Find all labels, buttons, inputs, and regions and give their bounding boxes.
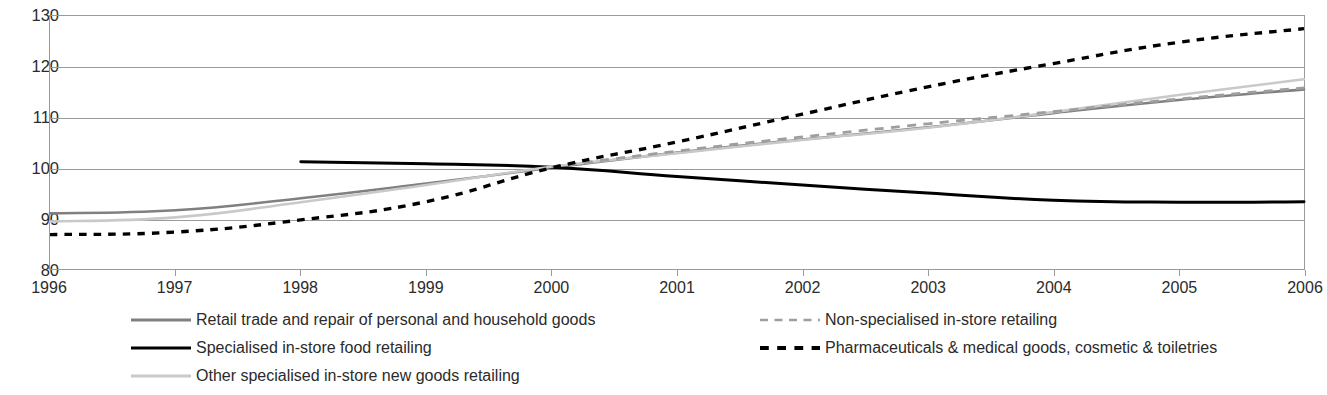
x-tick-label-1998: 1998 (255, 280, 345, 296)
x-tick-label-1999: 1999 (381, 280, 471, 296)
x-tick-1997 (175, 270, 176, 276)
legend-label: Pharmaceuticals & medical goods, cosmeti… (825, 340, 1217, 356)
x-tick-1998 (300, 270, 301, 276)
series-line-2 (50, 79, 1304, 221)
plot-area (49, 15, 1305, 270)
dashed-line-swatch-gray (760, 313, 820, 327)
x-tick-2000 (551, 270, 552, 276)
x-tick-2002 (803, 270, 804, 276)
x-tick-label-2003: 2003 (883, 280, 973, 296)
x-tick-label-2000: 2000 (506, 280, 596, 296)
series-line-4 (50, 29, 1304, 235)
x-tick-label-2002: 2002 (758, 280, 848, 296)
legend-label: Other specialised in-store new goods ret… (196, 368, 520, 384)
solid-line-swatch-light-gray (131, 369, 191, 383)
x-tick-2005 (1179, 270, 1180, 276)
x-tick-2001 (677, 270, 678, 276)
x-tick-label-1997: 1997 (130, 280, 220, 296)
x-tick-2006 (1305, 270, 1306, 276)
solid-line-swatch-gray (131, 313, 191, 327)
series-lines-layer (50, 16, 1304, 269)
legend-entry[interactable]: Pharmaceuticals & medical goods, cosmeti… (760, 340, 1217, 356)
x-tick-2004 (1054, 270, 1055, 276)
legend-label: Retail trade and repair of personal and … (196, 312, 595, 328)
x-tick-2003 (928, 270, 929, 276)
x-tick-label-2004: 2004 (1009, 280, 1099, 296)
series-line-0 (50, 89, 1304, 213)
x-tick-label-2006: 2006 (1260, 280, 1327, 296)
dotted-line-swatch-black (760, 341, 820, 355)
solid-line-swatch-black (131, 341, 191, 355)
x-tick-label-1996: 1996 (4, 280, 94, 296)
x-tick-label-2001: 2001 (632, 280, 722, 296)
chart-legend: Retail trade and repair of personal and … (0, 312, 1313, 395)
legend-label: Specialised in-store food retailing (196, 340, 432, 356)
legend-label: Non-specialised in-store retailing (825, 312, 1057, 328)
legend-entry[interactable]: Retail trade and repair of personal and … (131, 312, 595, 328)
legend-entry[interactable]: Specialised in-store food retailing (131, 340, 432, 356)
x-tick-label-2005: 2005 (1134, 280, 1224, 296)
legend-entry[interactable]: Non-specialised in-store retailing (760, 312, 1057, 328)
x-tick-1999 (426, 270, 427, 276)
legend-entry[interactable]: Other specialised in-store new goods ret… (131, 368, 520, 384)
